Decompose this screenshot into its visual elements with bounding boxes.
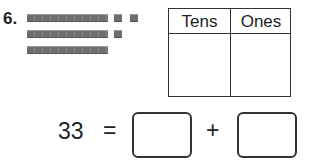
ones-answer-box[interactable] — [237, 112, 297, 158]
ten-rod-icon — [27, 14, 108, 22]
plus-sign: + — [206, 117, 219, 144]
problem-number: 6. — [3, 9, 17, 29]
ten-rod-icon — [27, 30, 108, 38]
unit-cube-icon — [130, 14, 138, 22]
tens-header: Tens — [169, 9, 230, 34]
ones-header: Ones — [231, 9, 291, 34]
ten-rod-icon — [27, 46, 108, 54]
unit-cube-icon — [114, 30, 122, 38]
equals-sign: = — [103, 117, 116, 144]
unit-cube-icon — [114, 14, 122, 22]
column-divider — [230, 9, 231, 96]
ones-cell[interactable] — [232, 35, 290, 96]
place-value-table: Tens Ones — [168, 8, 291, 97]
tens-cell[interactable] — [169, 35, 229, 96]
equation-number: 33 — [58, 118, 84, 145]
tens-answer-box[interactable] — [132, 112, 192, 158]
